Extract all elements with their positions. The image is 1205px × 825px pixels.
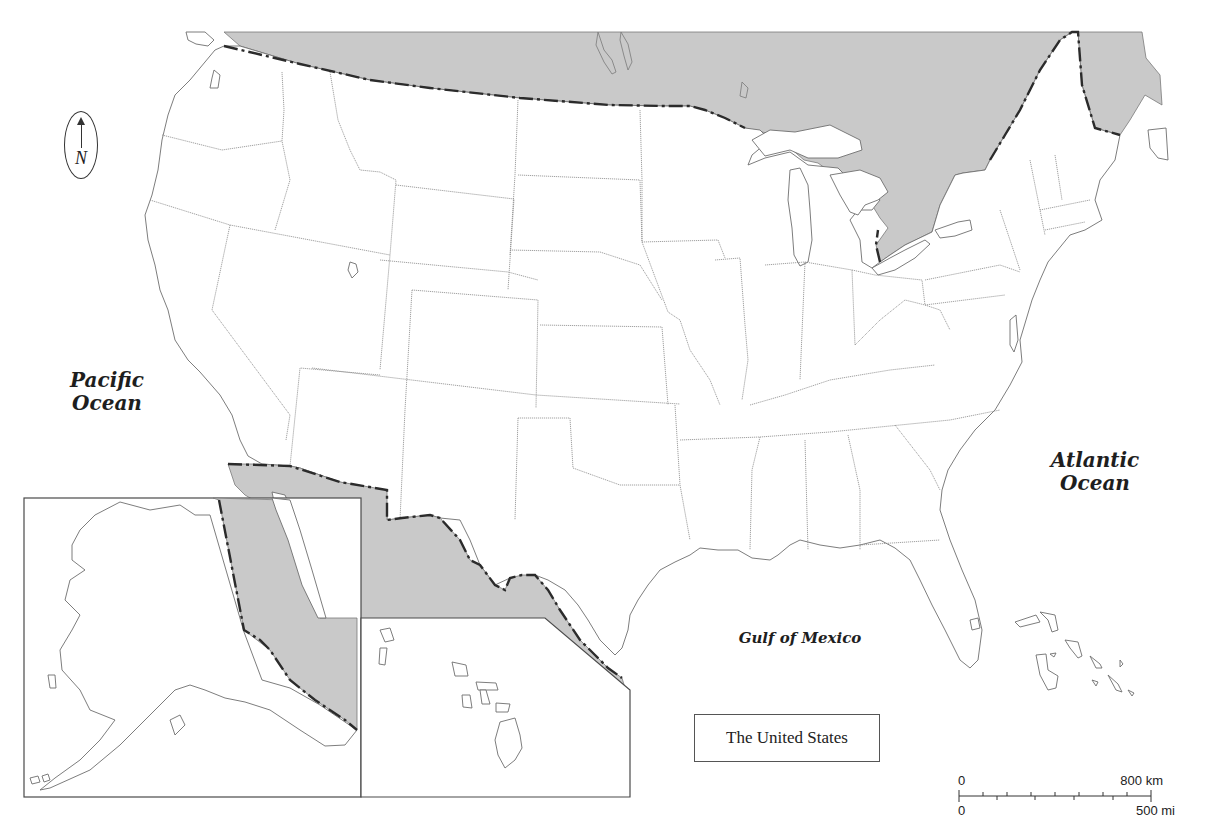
- lake-okeechobee: [970, 618, 980, 630]
- scale-ruler: [955, 788, 1155, 804]
- us-map: [0, 0, 1205, 825]
- pacific-ocean-label: PacificOcean: [52, 369, 162, 415]
- scale-mi-start: 0: [958, 803, 965, 818]
- alaska-inset: [24, 498, 361, 797]
- bahamas-islands: [1015, 612, 1134, 696]
- nova-scotia: [1148, 128, 1168, 160]
- map-title-text: The United States: [726, 728, 848, 748]
- vancouver-island: [186, 32, 214, 46]
- compass-north-letter: N: [65, 148, 97, 169]
- compass-rose: N: [64, 111, 98, 179]
- scale-bar: 0 800 km 0 500 mi: [955, 774, 1177, 824]
- hawaii-inset: [361, 618, 630, 797]
- map-title: The United States: [694, 714, 880, 762]
- atlantic-ocean-label: AtlanticOcean: [1030, 449, 1160, 495]
- gulf-of-mexico-label: Gulf of Mexico: [715, 630, 885, 647]
- scale-mi-end: 500 mi: [1136, 803, 1175, 818]
- scale-km-start: 0: [958, 773, 965, 788]
- north-arrow-shaft: [81, 122, 82, 148]
- scale-km-end: 800 km: [1120, 773, 1163, 788]
